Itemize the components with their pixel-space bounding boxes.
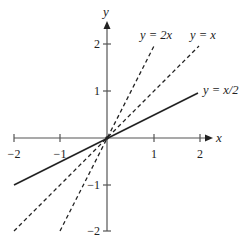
- y-tick-label: 2: [94, 37, 100, 51]
- x-tick-label: 1: [151, 147, 157, 161]
- y-axis-arrow-icon: [104, 21, 111, 29]
- y-axis: [103, 28, 111, 231]
- x-axis-arrow-icon: [205, 135, 213, 142]
- y-tick-label: 1: [94, 84, 100, 98]
- x-axis-label: x: [215, 130, 222, 145]
- x-tick-label: 2: [197, 147, 203, 161]
- chart: x y −2 −1 1 2 2 1 −1 −2 y = 2x y = x y =…: [0, 0, 245, 247]
- y-axis-label: y: [101, 4, 109, 19]
- x-tick-label: −2: [8, 147, 21, 161]
- y-tick-label: −2: [87, 224, 100, 238]
- label-y-equals-x: y = x: [188, 28, 216, 42]
- label-y-equals-2x: y = 2x: [138, 28, 172, 42]
- label-y-equals-half-x: y = x/2: [201, 83, 239, 97]
- y-tick-label: −1: [87, 178, 100, 192]
- origin-point: [105, 136, 109, 140]
